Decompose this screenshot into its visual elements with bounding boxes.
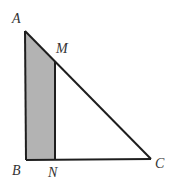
shaded-region-abnm [25, 31, 55, 160]
label-c: C [155, 157, 164, 171]
geometry-figure: A M B N C [0, 0, 189, 187]
label-a: A [12, 12, 21, 26]
label-b: B [12, 164, 21, 178]
segment-bc [26, 159, 151, 160]
label-m: M [56, 42, 68, 56]
label-n: N [48, 166, 57, 180]
segment-ab [25, 31, 26, 160]
